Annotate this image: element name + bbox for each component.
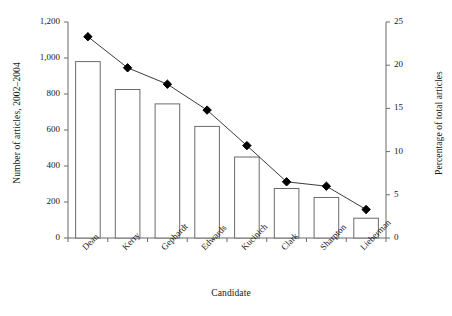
y-axis-right-tick-label: 5: [394, 189, 424, 199]
bar: [115, 90, 140, 239]
bar: [195, 126, 220, 238]
y-axis-right-tick-label: 10: [394, 146, 424, 156]
y-axis-left-tick-label: 0: [16, 232, 60, 242]
line-marker-diamond: [322, 182, 330, 190]
y-axis-left-tick-label: 800: [16, 88, 60, 98]
line-marker-diamond: [163, 80, 171, 88]
chart-container: Number of articles, 2002–2004 Percentage…: [0, 0, 452, 316]
line-marker-diamond: [84, 33, 92, 41]
y-axis-left-tick-label: 600: [16, 124, 60, 134]
line-marker-diamond: [123, 64, 131, 72]
y-axis-left-tick-label: 1,200: [16, 16, 60, 26]
bar: [155, 104, 180, 238]
y-axis-left-tick-label: 1,000: [16, 52, 60, 62]
y-axis-right-tick-label: 0: [394, 232, 424, 242]
bar: [235, 157, 260, 238]
plot-area: [0, 0, 452, 316]
y-axis-right-tick-label: 15: [394, 102, 424, 112]
y-axis-left-tick-label: 200: [16, 196, 60, 206]
bar: [274, 189, 299, 239]
y-axis-right-tick-label: 20: [394, 59, 424, 69]
bar: [76, 62, 101, 238]
y-axis-right-tick-label: 25: [394, 16, 424, 26]
line-marker-diamond: [362, 205, 370, 213]
y-axis-left-tick-label: 400: [16, 160, 60, 170]
